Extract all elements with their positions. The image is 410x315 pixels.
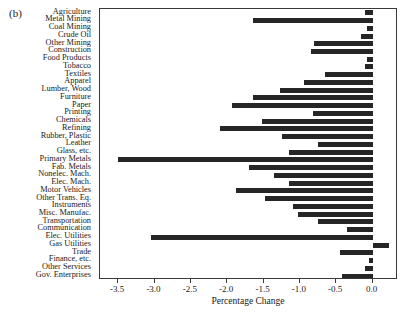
bar <box>361 34 373 39</box>
bar <box>347 227 372 232</box>
bar <box>311 49 373 54</box>
bar <box>262 119 372 124</box>
bar <box>289 150 373 155</box>
category-axis-labels: AgricultureMetal MiningCoal MiningCrude … <box>0 8 95 279</box>
plot-frame <box>99 8 397 279</box>
x-tick <box>335 279 336 283</box>
bar <box>232 103 372 108</box>
bar <box>118 157 372 162</box>
bar <box>253 95 373 100</box>
bar <box>274 173 372 178</box>
bar <box>280 88 373 93</box>
x-tick <box>263 279 264 283</box>
bar <box>369 258 373 263</box>
x-tick <box>117 279 118 283</box>
x-tick-label: 0.0 <box>352 284 392 294</box>
plot-area <box>100 9 396 278</box>
bar <box>249 165 373 170</box>
bar <box>298 212 372 217</box>
x-tick-label: -2.5 <box>170 284 210 294</box>
x-tick <box>372 279 373 283</box>
bar <box>365 10 372 15</box>
x-tick-label: -3.0 <box>134 284 174 294</box>
bar <box>314 41 372 46</box>
x-tick <box>154 279 155 283</box>
category-label: Gov. Enterprises <box>0 271 91 279</box>
x-tick-label: -2.0 <box>206 284 246 294</box>
bar <box>365 64 373 69</box>
bar <box>220 126 373 131</box>
x-tick-label: -3.5 <box>97 284 137 294</box>
bar <box>289 181 373 186</box>
bar <box>367 26 373 31</box>
bar <box>325 72 372 77</box>
bar <box>265 196 373 201</box>
bar <box>318 219 373 224</box>
bar <box>367 57 372 62</box>
x-tick-label: -1.0 <box>279 284 319 294</box>
bar <box>253 18 373 23</box>
bar <box>340 250 373 255</box>
bar <box>282 134 373 139</box>
bar <box>304 80 373 85</box>
bar <box>293 204 373 209</box>
x-tick-label: -1.5 <box>243 284 283 294</box>
bar <box>318 142 373 147</box>
bar <box>365 266 373 271</box>
bar <box>373 243 389 248</box>
bar <box>236 188 373 193</box>
bar <box>151 235 373 240</box>
x-tick <box>226 279 227 283</box>
x-tick <box>299 279 300 283</box>
x-axis-title: Percentage Change <box>99 296 397 306</box>
bar <box>313 111 373 116</box>
bar <box>342 274 373 278</box>
x-tick <box>190 279 191 283</box>
x-tick-label: -0.5 <box>315 284 355 294</box>
figure-panel-b: (b) AgricultureMetal MiningCoal MiningCr… <box>0 0 410 315</box>
